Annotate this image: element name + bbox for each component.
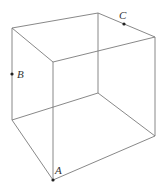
point-c-label: C <box>119 9 127 21</box>
edge-bottom-right <box>53 136 155 180</box>
edge-top-front <box>12 28 53 62</box>
point-a-dot <box>51 178 54 181</box>
edge-bottom-front <box>12 120 53 180</box>
point-b-dot <box>10 72 13 75</box>
edge-bottom-left <box>12 93 98 120</box>
point-a-label: A <box>54 164 62 176</box>
cube-diagram: A B C <box>0 0 164 188</box>
edge-top-right <box>53 37 155 62</box>
edge-top-left <box>12 13 98 28</box>
edge-top-back <box>98 13 155 37</box>
point-c-dot <box>122 22 125 25</box>
point-b-label: B <box>17 68 24 80</box>
edge-bottom-back <box>98 93 155 136</box>
